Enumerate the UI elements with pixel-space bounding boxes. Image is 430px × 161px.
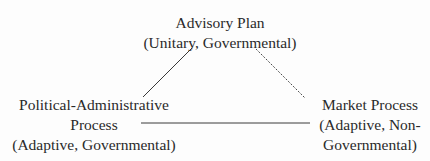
node-title: Advisory Plan (130, 13, 310, 33)
edge-advisory-to-political (143, 48, 192, 97)
node-title: Market Process (318, 95, 422, 115)
edge-advisory-to-market (256, 49, 305, 98)
node-subtitle-line2: Governmental) (318, 135, 422, 155)
node-subtitle: (Adaptive, Governmental) (0, 135, 188, 155)
node-subtitle: (Adaptive, Non- (318, 115, 422, 135)
node-advisory-plan: Advisory Plan (Unitary, Governmental) (130, 13, 310, 53)
node-political-administrative-process: Political-Administrative Process (Adapti… (0, 95, 188, 155)
node-market-process: Market Process (Adaptive, Non- Governmen… (318, 95, 422, 155)
node-title: Political-Administrative (0, 95, 188, 115)
node-title-line2: Process (0, 115, 188, 135)
node-subtitle: (Unitary, Governmental) (130, 33, 310, 53)
